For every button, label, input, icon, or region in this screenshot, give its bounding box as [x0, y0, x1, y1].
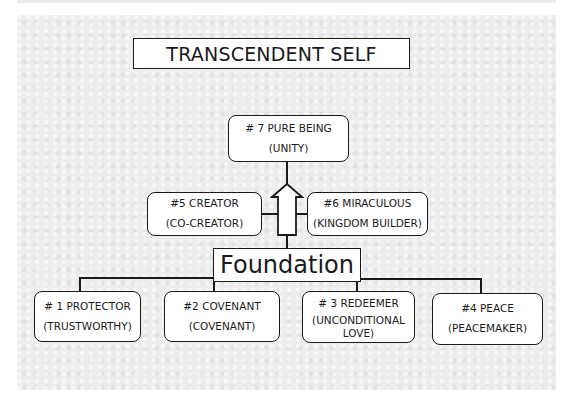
foundation-box: Foundation	[213, 248, 361, 282]
connector-base-bus-left	[79, 277, 214, 279]
node-sublabel: (CO-CREATOR)	[166, 214, 243, 234]
node-sublabel: (COVENANT)	[189, 317, 256, 337]
foundation-label: Foundation	[220, 251, 354, 279]
node-peace: #4 PEACE (PEACEMAKER)	[432, 293, 543, 345]
title-text: TRANSCENDENT SELF	[166, 43, 376, 65]
node-miraculous: #6 MIRACULOUS (KINGDOM BUILDER)	[307, 192, 428, 236]
node-protector: # 1 PROTECTOR (TRUSTWORTHY)	[34, 291, 141, 342]
node-label: #6 MIRACULOUS	[324, 194, 412, 214]
node-sublabel: (KINGDOM BUILDER)	[313, 214, 422, 234]
node-pure-being: # 7 PURE BEING (UNITY)	[228, 115, 349, 162]
node-covenant: #2 COVENANT (COVENANT)	[164, 291, 280, 342]
up-arrow-icon	[270, 182, 304, 238]
node-sublabel: (UNITY)	[269, 139, 309, 159]
node-label: # 1 PROTECTOR	[44, 297, 130, 317]
top-strip	[17, 0, 556, 3]
node-label: # 3 REDEEMER	[318, 294, 398, 314]
node-label: #2 COVENANT	[183, 297, 260, 317]
node-label: #5 CREATOR	[170, 194, 238, 214]
node-sublabel: (UNCONDITIONAL LOVE)	[309, 314, 409, 339]
node-sublabel: (PEACEMAKER)	[448, 319, 527, 339]
node-sublabel: (TRUSTWORTHY)	[43, 317, 132, 337]
node-label: #4 PEACE	[461, 299, 514, 319]
node-redeemer: # 3 REDEEMER (UNCONDITIONAL LOVE)	[302, 291, 415, 343]
connector-to-box1	[79, 277, 81, 292]
node-label: # 7 PURE BEING	[245, 119, 331, 139]
connector-to-box4	[480, 278, 482, 294]
node-creator: #5 CREATOR (CO-CREATOR)	[147, 192, 262, 236]
connector-base-bus-right	[360, 278, 482, 280]
diagram-title: TRANSCENDENT SELF	[133, 38, 410, 69]
